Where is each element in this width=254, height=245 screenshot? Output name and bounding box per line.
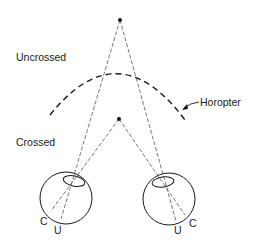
left-eye-c-label: C xyxy=(40,216,48,227)
crossed-label: Crossed xyxy=(16,137,55,148)
right-eye xyxy=(143,173,195,225)
right-eye-u-label: U xyxy=(174,225,182,236)
near-line-left xyxy=(51,119,119,211)
near-fixation-point xyxy=(117,117,121,121)
horopter-diagram xyxy=(0,0,254,245)
uncrossed-label: Uncrossed xyxy=(16,52,66,63)
left-lens xyxy=(62,174,86,188)
left-eye-u-label: U xyxy=(54,225,62,236)
horopter-label: Horopter xyxy=(200,97,241,108)
right-eyeball xyxy=(143,173,195,225)
far-fixation-point xyxy=(118,18,122,22)
right-eye-c-label: C xyxy=(189,218,197,229)
arrow-head-icon xyxy=(182,104,188,110)
far-line-right xyxy=(120,20,176,221)
horopter-arc xyxy=(50,74,185,120)
